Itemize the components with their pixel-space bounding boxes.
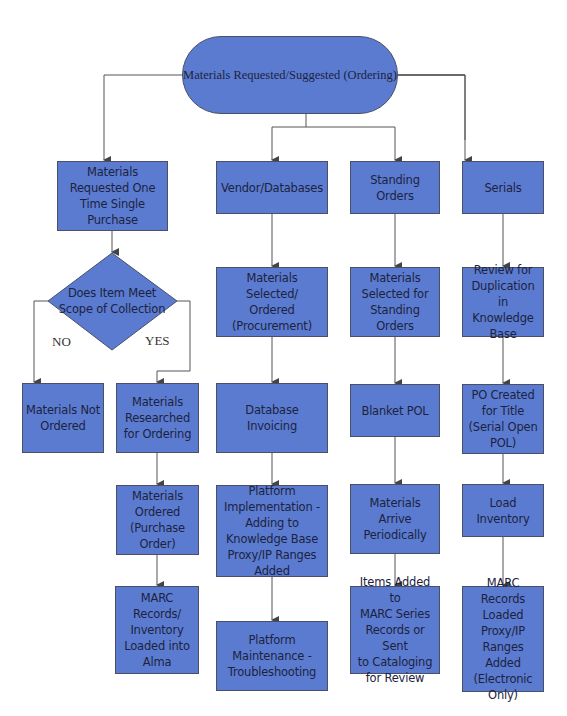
- node-database-invoicing: Database Invoicing: [216, 383, 328, 453]
- node-serials: Serials: [462, 161, 544, 214]
- node-materials-selected-procurement: Materials Selected/ Ordered (Procurement…: [216, 267, 328, 337]
- decision-label: Does Item Meet Scope of Collection: [52, 285, 172, 317]
- node-items-added-marc: Items Added to MARC Series Records or Se…: [350, 586, 440, 674]
- node-vendor-databases: Vendor/Databases: [216, 161, 328, 214]
- node-load-inventory: Load Inventory: [462, 484, 544, 537]
- node-review-duplication: Review for Duplication in Knowledge Base: [462, 267, 544, 337]
- no-label: NO: [52, 334, 71, 350]
- node-materials-researched: Materials Researched for Ordering: [116, 383, 199, 453]
- node-po-created: PO Created for Title (Serial Open POL): [462, 384, 544, 454]
- node-materials-arrive: Materials Arrive Periodically: [350, 484, 440, 554]
- node-materials-ordered-po: Materials Ordered (Purchase Order): [116, 485, 199, 555]
- node-platform-maintenance: Platform Maintenance - Troubleshooting: [216, 621, 328, 691]
- node-materials-not-ordered: Materials Not Ordered: [22, 383, 104, 453]
- flowchart: Materials Requested/Suggested (Ordering)…: [0, 0, 567, 716]
- node-marc-records-loaded: MARC Records Loaded Proxy/IP Ranges Adde…: [462, 586, 544, 692]
- yes-label: YES: [145, 333, 170, 349]
- node-marc-inventory-alma: MARC Records/ Inventory Loaded into Alma: [115, 586, 199, 674]
- node-platform-implementation: Platform Implementation - Adding to Know…: [216, 485, 328, 577]
- node-materials-selected-standing: Materials Selected for Standing Orders: [350, 267, 440, 337]
- node-blanket-pol: Blanket POL: [350, 384, 440, 437]
- node-standing-orders: Standing Orders: [350, 161, 440, 214]
